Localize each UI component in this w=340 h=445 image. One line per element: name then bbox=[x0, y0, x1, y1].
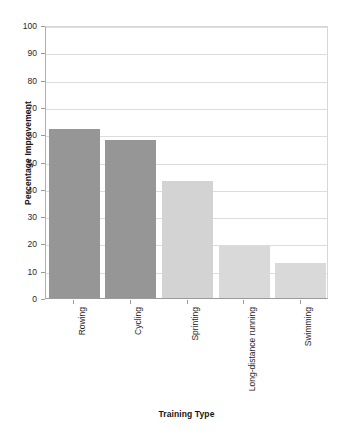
bar-chart: Percentage Improvement 01020304050607080… bbox=[0, 0, 340, 445]
x-tick-label: Rowing bbox=[77, 307, 87, 335]
y-tick-label: 40 bbox=[3, 185, 37, 195]
y-tick-label: 100 bbox=[3, 21, 37, 31]
plot-area bbox=[45, 26, 328, 299]
x-tick-label: Cycling bbox=[133, 307, 143, 335]
bar[interactable] bbox=[275, 263, 326, 298]
x-axis-title: Training Type bbox=[45, 409, 328, 419]
y-tick-label: 10 bbox=[3, 267, 37, 277]
bars-layer bbox=[46, 27, 327, 298]
bar[interactable] bbox=[49, 129, 100, 298]
y-tick-label: 50 bbox=[3, 158, 37, 168]
x-tick-mark bbox=[243, 300, 244, 304]
y-tick-label: 30 bbox=[3, 212, 37, 222]
y-tick-mark bbox=[41, 299, 45, 300]
bar[interactable] bbox=[105, 140, 156, 298]
y-tick-label: 80 bbox=[3, 76, 37, 86]
y-tick-label: 90 bbox=[3, 48, 37, 58]
x-tick-mark bbox=[73, 300, 74, 304]
x-tick-label: Sprinting bbox=[190, 307, 200, 341]
y-axis-title: Percentage Improvement bbox=[23, 73, 33, 233]
y-tick-label: 70 bbox=[3, 103, 37, 113]
x-tick-label: Swimming bbox=[303, 307, 313, 346]
x-tick-mark bbox=[130, 300, 131, 304]
y-tick-label: 20 bbox=[3, 239, 37, 249]
x-tick-label: Long-distance running bbox=[247, 307, 257, 391]
y-tick-label: 60 bbox=[3, 130, 37, 140]
bar[interactable] bbox=[219, 246, 270, 298]
x-tick-mark bbox=[300, 300, 301, 304]
x-tick-mark bbox=[187, 300, 188, 304]
y-tick-label: 0 bbox=[3, 294, 37, 304]
bar[interactable] bbox=[162, 181, 213, 298]
